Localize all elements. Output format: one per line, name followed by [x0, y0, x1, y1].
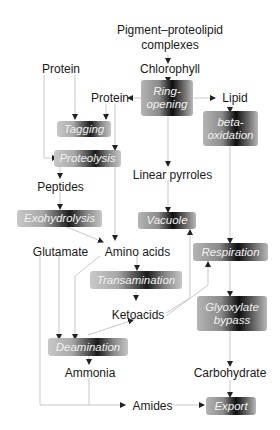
process-label: Export [214, 400, 247, 413]
process-beta-oxidation: beta- oxidation [203, 111, 258, 146]
node-complexes: complexes [130, 38, 210, 52]
node-protein-mid: Protein [85, 91, 135, 105]
node-linear-pyrroles: Linear pyrroles [125, 168, 220, 182]
node-peptides: Peptides [33, 180, 88, 194]
node-ketoacids: Ketoacids [108, 308, 168, 322]
process-label: bypass [214, 314, 250, 327]
process-label: beta- [217, 116, 243, 129]
node-pigment-proteolipid: Pigment–proteolipid [110, 23, 230, 37]
node-carbohydrate: Carbohydrate [190, 366, 270, 380]
process-tagging: Tagging [57, 121, 111, 137]
process-label: Vacuole [146, 214, 187, 227]
process-export: Export [206, 397, 256, 415]
process-proteolysis: Proteolysis [54, 150, 121, 167]
process-label: Glyoxylate [205, 301, 259, 314]
process-vacuole: Vacuole [138, 212, 196, 229]
process-label: Proteolysis [59, 152, 115, 165]
process-label: opening [147, 98, 188, 111]
process-label: oxidation [207, 129, 253, 142]
process-label: Exohydrolysis [24, 212, 95, 225]
process-label: Transamination [97, 274, 175, 287]
process-label: Tagging [64, 123, 105, 136]
node-amides: Amides [130, 399, 175, 413]
node-amino-acids: Amino acids [100, 245, 175, 259]
process-ring-opening: Ring- opening [141, 80, 193, 116]
process-deamination: Deamination [48, 338, 128, 356]
node-protein-left: Protein [36, 62, 86, 76]
node-chlorophyll: Chlorophyll [130, 62, 210, 76]
process-respiration: Respiration [193, 243, 268, 261]
process-label: Ring- [153, 85, 180, 98]
process-label: Respiration [201, 246, 259, 259]
process-glyoxylate-bypass: Glyoxylate bypass [197, 296, 267, 331]
node-glutamate: Glutamate [28, 245, 93, 259]
process-label: Deamination [56, 341, 121, 354]
node-ammonia: Ammonia [60, 366, 120, 380]
node-lipid: Lipid [215, 91, 255, 105]
process-transamination: Transamination [90, 271, 182, 289]
process-exohydrolysis: Exohydrolysis [17, 210, 102, 227]
